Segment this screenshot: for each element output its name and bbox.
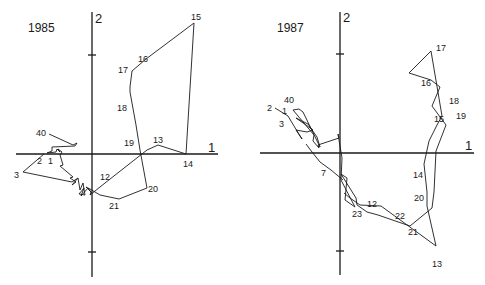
point-label: 13 xyxy=(153,135,163,145)
point-label: 18 xyxy=(449,96,459,106)
point-label: 18 xyxy=(117,103,127,113)
point-label: 23 xyxy=(352,209,362,219)
point-label: 3 xyxy=(14,170,19,180)
point-label: 16 xyxy=(138,54,148,64)
axis-1-label-1987: 1 xyxy=(465,138,472,153)
point-label: 3 xyxy=(279,119,284,129)
point-label: 17 xyxy=(436,43,446,53)
point-label: 12 xyxy=(100,172,110,182)
point-label: 19 xyxy=(124,138,134,148)
panel-1987: 1987 2 1 40 1 2 3 7 12 13 14 15 16 17 18… xyxy=(260,10,474,275)
point-label: 7 xyxy=(321,168,326,178)
point-label: 14 xyxy=(183,159,193,169)
point-label: 2 xyxy=(267,103,272,113)
point-label: 22 xyxy=(395,211,405,221)
axis-1-label-1985: 1 xyxy=(208,140,215,155)
point-label: 14 xyxy=(413,170,423,180)
point-label: 20 xyxy=(148,184,158,194)
point-label: 16 xyxy=(421,78,431,88)
point-label: 40 xyxy=(284,95,294,105)
point-label: 15 xyxy=(191,12,201,22)
point-label: 40 xyxy=(36,128,46,138)
point-label: 13 xyxy=(432,259,442,269)
point-label: 12 xyxy=(367,199,377,209)
axis-2-label-1985: 2 xyxy=(95,11,102,26)
axis-2-label-1987: 2 xyxy=(343,10,350,25)
panel-title-1985: 1985 xyxy=(28,21,55,35)
point-label: 20 xyxy=(414,193,424,203)
panel-1985: 1985 2 1 40 1 2 3 12 13 14 15 16 17 18 1… xyxy=(14,11,218,277)
point-label: 17 xyxy=(118,65,128,75)
point-label: 21 xyxy=(408,227,418,237)
point-label: 1 xyxy=(48,156,53,166)
panel-title-1987: 1987 xyxy=(277,21,304,35)
ordination-diagrams: 1985 2 1 40 1 2 3 12 13 14 15 16 17 18 1… xyxy=(0,0,485,285)
point-label: 15 xyxy=(434,114,444,124)
point-label: 21 xyxy=(109,201,119,211)
point-label: 1 xyxy=(282,106,287,116)
point-label: 2 xyxy=(37,156,42,166)
point-label: 19 xyxy=(456,111,466,121)
